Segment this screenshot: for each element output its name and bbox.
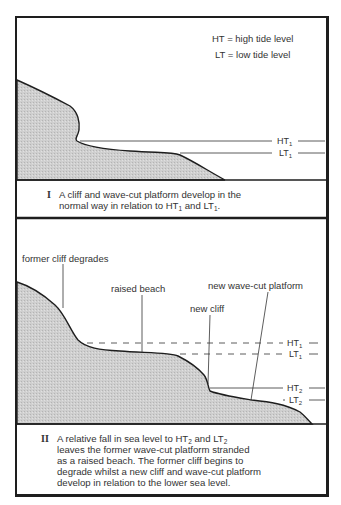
caption-2-line-2: leaves the former wave-cut platform stra… <box>57 444 250 455</box>
cliff-profile-2 <box>17 282 312 424</box>
caption-2-line-3: as a raised beach. The former cliff begi… <box>57 455 243 466</box>
caption-2-line-4: degrade whilst a new cliff and wave-cut … <box>57 466 261 477</box>
label-ht1-panel-2: HT1 <box>287 338 303 349</box>
caption-2-line-5: develop in relation to the lower sea lev… <box>57 477 230 488</box>
caption-numeral-1: I <box>47 189 51 200</box>
legend-lt: LT = low tide level <box>215 49 290 60</box>
raised-beach-diagram: HT = high tide level LT = low tide level… <box>0 0 341 505</box>
annotation-former-cliff: former cliff degrades <box>22 253 109 264</box>
label-ht1-panel-1: HT1 <box>277 136 293 147</box>
caption-1-line-1: A cliff and wave-cut platform develop in… <box>59 189 241 200</box>
label-lt1-panel-1: LT1 <box>279 148 293 159</box>
label-lt2: LT2 <box>289 395 303 406</box>
label-lt1-panel-2: LT1 <box>289 349 303 360</box>
caption-1-line-2: normal way in relation to HT1 and LT1. <box>59 200 220 214</box>
cliff-profile-1 <box>17 80 225 180</box>
legend-ht: HT = high tide level <box>212 33 293 44</box>
annotation-raised-beach: raised beach <box>111 283 165 294</box>
leader-new-cliff <box>208 315 210 384</box>
annotation-new-cliff: new cliff <box>190 303 225 314</box>
caption-panel-1: I A cliff and wave-cut platform develop … <box>17 188 325 216</box>
panel-1 <box>15 80 326 180</box>
leader-new-platform <box>251 292 268 400</box>
caption-numeral-2: II <box>41 433 49 444</box>
caption-panel-2: II A relative fall in sea level to HT2 a… <box>17 432 325 492</box>
label-ht2: HT2 <box>287 383 303 394</box>
annotation-new-platform: new wave-cut platform <box>208 280 303 291</box>
